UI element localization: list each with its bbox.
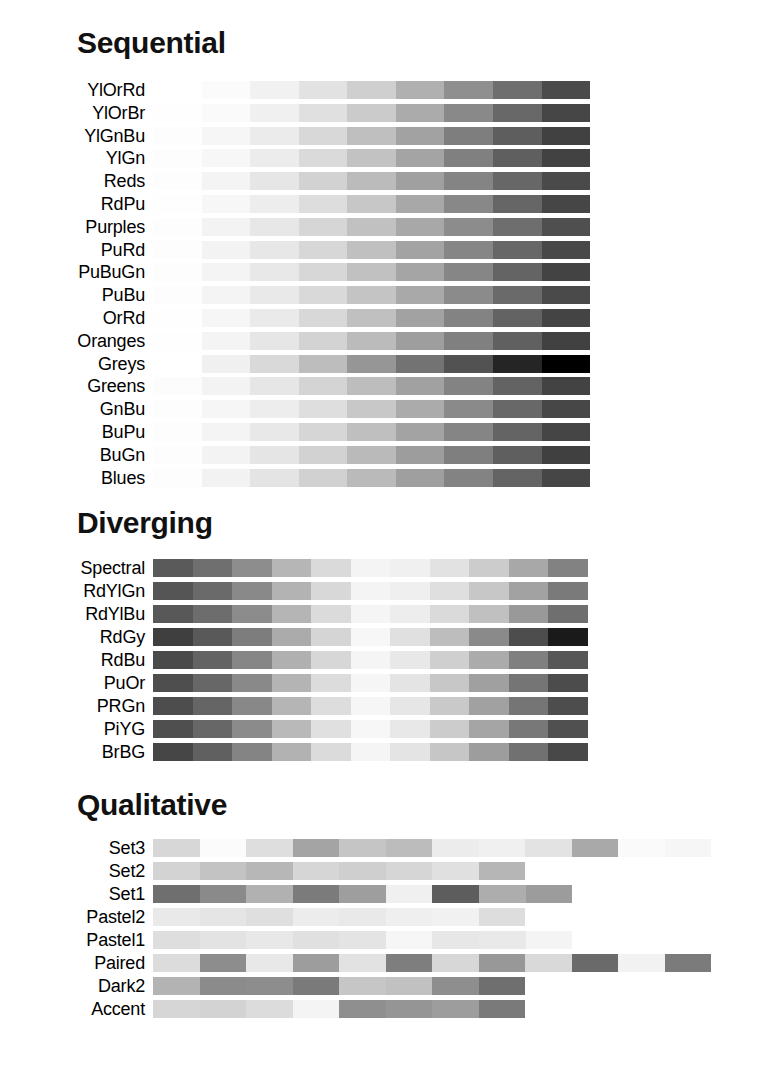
color-swatch[interactable] bbox=[396, 355, 445, 373]
color-swatch[interactable] bbox=[469, 697, 509, 715]
color-swatch[interactable] bbox=[396, 332, 445, 350]
color-swatch[interactable] bbox=[386, 1000, 433, 1018]
color-swatch[interactable] bbox=[299, 400, 348, 418]
color-swatch[interactable] bbox=[390, 674, 430, 692]
color-swatch[interactable] bbox=[479, 908, 526, 926]
color-swatch[interactable] bbox=[153, 355, 202, 373]
color-swatch[interactable] bbox=[396, 446, 445, 464]
color-swatch[interactable] bbox=[153, 559, 193, 577]
color-swatch[interactable] bbox=[347, 81, 396, 99]
color-swatch[interactable] bbox=[293, 931, 340, 949]
color-swatch[interactable] bbox=[386, 862, 433, 880]
color-swatch[interactable] bbox=[153, 628, 193, 646]
color-swatch[interactable] bbox=[493, 377, 542, 395]
color-swatch[interactable] bbox=[469, 605, 509, 623]
color-swatch[interactable] bbox=[153, 839, 200, 857]
colormap-strip[interactable] bbox=[153, 400, 590, 418]
colormap-row[interactable]: Set2 bbox=[0, 861, 780, 881]
color-swatch[interactable] bbox=[396, 104, 445, 122]
color-swatch[interactable] bbox=[311, 628, 351, 646]
color-swatch[interactable] bbox=[479, 885, 526, 903]
color-swatch[interactable] bbox=[390, 559, 430, 577]
colormap-strip[interactable] bbox=[153, 469, 590, 487]
colormap-row[interactable]: GnBu bbox=[0, 399, 780, 419]
color-swatch[interactable] bbox=[246, 908, 293, 926]
color-swatch[interactable] bbox=[347, 286, 396, 304]
colormap-row[interactable]: Reds bbox=[0, 171, 780, 191]
color-swatch[interactable] bbox=[232, 605, 272, 623]
color-swatch[interactable] bbox=[272, 628, 312, 646]
color-swatch[interactable] bbox=[250, 355, 299, 373]
color-swatch[interactable] bbox=[193, 651, 233, 669]
colormap-row[interactable]: Pastel1 bbox=[0, 930, 780, 950]
colormap-row[interactable]: OrRd bbox=[0, 308, 780, 328]
colormap-strip[interactable] bbox=[153, 559, 588, 577]
color-swatch[interactable] bbox=[432, 954, 479, 972]
color-swatch[interactable] bbox=[390, 651, 430, 669]
color-swatch[interactable] bbox=[311, 651, 351, 669]
color-swatch[interactable] bbox=[200, 908, 247, 926]
color-swatch[interactable] bbox=[153, 469, 202, 487]
color-swatch[interactable] bbox=[548, 743, 588, 761]
color-swatch[interactable] bbox=[293, 862, 340, 880]
color-swatch[interactable] bbox=[250, 469, 299, 487]
colormap-row[interactable]: YlOrRd bbox=[0, 80, 780, 100]
color-swatch[interactable] bbox=[430, 697, 470, 715]
color-swatch[interactable] bbox=[272, 651, 312, 669]
color-swatch[interactable] bbox=[293, 1000, 340, 1018]
color-swatch[interactable] bbox=[351, 674, 391, 692]
color-swatch[interactable] bbox=[153, 605, 193, 623]
colormap-strip[interactable] bbox=[153, 446, 590, 464]
color-swatch[interactable] bbox=[444, 400, 493, 418]
color-swatch[interactable] bbox=[202, 149, 251, 167]
color-swatch[interactable] bbox=[432, 908, 479, 926]
color-swatch[interactable] bbox=[542, 263, 591, 281]
color-swatch[interactable] bbox=[339, 977, 386, 995]
color-swatch[interactable] bbox=[525, 954, 572, 972]
color-swatch[interactable] bbox=[293, 954, 340, 972]
color-swatch[interactable] bbox=[202, 81, 251, 99]
color-swatch[interactable] bbox=[299, 127, 348, 145]
color-swatch[interactable] bbox=[250, 172, 299, 190]
color-swatch[interactable] bbox=[347, 332, 396, 350]
colormap-strip[interactable] bbox=[153, 908, 525, 926]
colormap-row[interactable]: Purples bbox=[0, 217, 780, 237]
color-swatch[interactable] bbox=[432, 931, 479, 949]
colormap-row[interactable]: Oranges bbox=[0, 331, 780, 351]
color-swatch[interactable] bbox=[299, 172, 348, 190]
color-swatch[interactable] bbox=[193, 697, 233, 715]
color-swatch[interactable] bbox=[339, 839, 386, 857]
color-swatch[interactable] bbox=[432, 862, 479, 880]
color-swatch[interactable] bbox=[311, 674, 351, 692]
color-swatch[interactable] bbox=[396, 195, 445, 213]
color-swatch[interactable] bbox=[293, 977, 340, 995]
color-swatch[interactable] bbox=[153, 674, 193, 692]
color-swatch[interactable] bbox=[299, 263, 348, 281]
color-swatch[interactable] bbox=[311, 605, 351, 623]
colormap-strip[interactable] bbox=[153, 582, 588, 600]
color-swatch[interactable] bbox=[153, 931, 200, 949]
color-swatch[interactable] bbox=[509, 697, 549, 715]
color-swatch[interactable] bbox=[202, 469, 251, 487]
color-swatch[interactable] bbox=[347, 263, 396, 281]
color-swatch[interactable] bbox=[299, 81, 348, 99]
color-swatch[interactable] bbox=[250, 423, 299, 441]
color-swatch[interactable] bbox=[665, 839, 712, 857]
color-swatch[interactable] bbox=[299, 332, 348, 350]
color-swatch[interactable] bbox=[542, 400, 591, 418]
color-swatch[interactable] bbox=[153, 218, 202, 236]
colormap-row[interactable]: Pastel2 bbox=[0, 907, 780, 927]
colormap-row[interactable]: Blues bbox=[0, 468, 780, 488]
color-swatch[interactable] bbox=[386, 908, 433, 926]
colormap-row[interactable]: PiYG bbox=[0, 719, 780, 739]
color-swatch[interactable] bbox=[347, 400, 396, 418]
color-swatch[interactable] bbox=[444, 127, 493, 145]
color-swatch[interactable] bbox=[430, 605, 470, 623]
color-swatch[interactable] bbox=[193, 720, 233, 738]
color-swatch[interactable] bbox=[250, 149, 299, 167]
color-swatch[interactable] bbox=[444, 218, 493, 236]
color-swatch[interactable] bbox=[542, 81, 591, 99]
color-swatch[interactable] bbox=[548, 720, 588, 738]
color-swatch[interactable] bbox=[202, 172, 251, 190]
colormap-row[interactable]: RdYlBu bbox=[0, 604, 780, 624]
